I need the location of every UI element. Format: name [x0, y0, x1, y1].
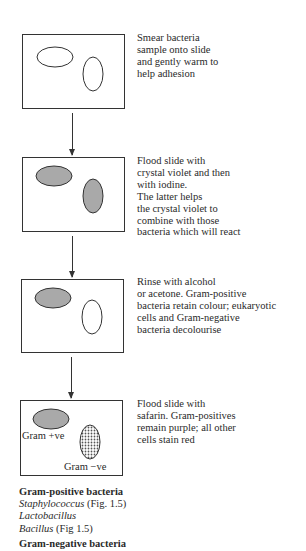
cell-positive-unstained — [37, 47, 73, 67]
gram-negative-heading: Gram-negative bacteria — [19, 538, 126, 550]
arrow-1 — [72, 113, 73, 155]
arrowhead-icon — [68, 392, 74, 399]
cell-gram-positive — [33, 409, 69, 429]
cell-positive-stained — [36, 166, 72, 186]
gram-positive-label: Gram +ve — [22, 430, 64, 441]
arrow-3 — [71, 357, 72, 398]
arrowhead-icon — [69, 149, 75, 156]
arrowhead-icon — [69, 271, 75, 278]
cell-negative-stained — [83, 179, 103, 213]
cell-negative-unstained — [83, 57, 103, 91]
gram-positive-heading: Gram-positive bacteria — [19, 486, 126, 498]
example-item: Lactobacillus — [19, 510, 126, 522]
step-2-text: Flood slide with crystal violet and then… — [137, 155, 241, 238]
step-4-text: Flood slide with safarin. Gram-positives… — [137, 398, 236, 446]
cell-positive-retained — [35, 288, 71, 308]
examples-list: Gram-positive bacteria Staphylococcus (F… — [19, 486, 126, 550]
step-1-text: Smear bacteria sample onto slide and gen… — [137, 32, 218, 80]
step-3-text: Rinse with alcohol or acetone. Gram-posi… — [137, 276, 276, 336]
cell-negative-decolourised — [82, 300, 102, 334]
arrow-2 — [72, 236, 73, 277]
gram-negative-label: Gram −ve — [64, 461, 106, 472]
example-item: Staphylococcus (Fig. 1.5) — [19, 498, 126, 510]
example-item: Bacillus (Fig 1.5) — [19, 523, 126, 535]
cell-gram-negative — [80, 425, 100, 459]
